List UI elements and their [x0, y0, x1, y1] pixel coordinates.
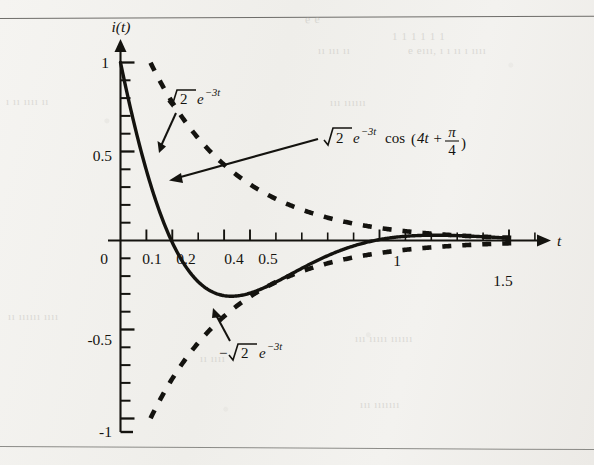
y-tick-label-neg0.5: -0.5 [87, 331, 112, 348]
leader-main-curve-arrowhead [169, 173, 183, 183]
figure-root: e e1 1 1 1 1 1ıı ııı ııe eııı, ı ı ıı ı … [0, 0, 594, 465]
y-tick-label-neg1: -1 [99, 423, 112, 440]
main-curve-paren-close: ) [461, 135, 466, 152]
upper-envelope-base: e [197, 91, 204, 107]
x-tick-label-0.4: 0.4 [224, 250, 244, 267]
x-tick-label-0.2: 0.2 [176, 250, 195, 267]
main-curve-exponent: −3t [361, 126, 377, 137]
y-tick-label-0.5: 0.5 [93, 147, 113, 164]
y-axis-arrowhead [115, 39, 127, 52]
x-axis-title: t [557, 232, 562, 249]
y-tick-labels: 1 0.5 -0.5 -1 [87, 54, 112, 440]
y-tick-label-1: 1 [101, 54, 109, 71]
upper-envelope-exponent: −3t [205, 87, 221, 98]
x-tick-label-1.5: 1.5 [493, 272, 513, 289]
x-tick-label-1: 1 [393, 252, 401, 269]
lower-envelope-curve [151, 243, 522, 418]
main-curve-frac-numerator: π [448, 124, 456, 140]
leader-lower-envelope-arrowhead [212, 308, 222, 318]
main-curve-paren-open: ( [411, 131, 416, 148]
lower-envelope-sign: − [219, 345, 227, 361]
leader-upper-envelope [161, 113, 176, 146]
x-tick-label-0: 0 [100, 250, 108, 267]
lower-envelope-exponent: −3t [267, 341, 283, 352]
x-axis-arrowhead [537, 235, 551, 247]
lower-envelope-radicand: 2 [241, 345, 249, 361]
x-tick-label-0.1: 0.1 [142, 250, 161, 267]
main-curve-frac-denominator: 4 [448, 142, 456, 158]
upper-envelope-radicand-2: 2 [180, 91, 188, 107]
y-axis-title: i(t) [112, 18, 131, 36]
main-curve-radicand: 2 [336, 130, 344, 146]
plot-canvas: 0 0.1 0.2 0.4 0.5 1 1.5 1 0.5 -0.5 -1 i(… [0, 0, 594, 465]
main-curve-base: e [353, 130, 360, 146]
main-curve-label: 2 e −3t cos ( 4t + π 4 ) [324, 124, 466, 158]
lower-envelope-base: e [259, 345, 266, 361]
lower-envelope-label: − 2 e −3t [219, 341, 283, 361]
leader-main-curve [177, 139, 318, 178]
main-curve-trig: cos [385, 130, 405, 146]
x-tick-label-0.5: 0.5 [258, 250, 278, 267]
main-curve-argument: 4t + [417, 130, 443, 146]
